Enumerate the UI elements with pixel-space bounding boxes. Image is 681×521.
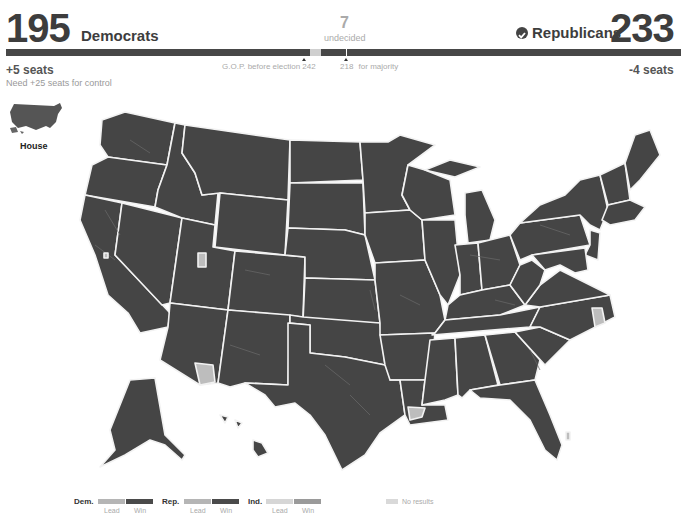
rep-segment: [321, 49, 681, 56]
legend-dem-label: Dem.: [74, 497, 94, 506]
state-north-dakota[interactable]: [290, 140, 363, 183]
legend-ind-lead-swatch: [266, 499, 293, 504]
state-florida[interactable]: [470, 380, 562, 460]
winner-check-icon: [516, 27, 528, 39]
legend-rep-lead-swatch: [184, 499, 211, 504]
state-iowa[interactable]: [365, 210, 425, 263]
democrat-need-text: Need +25 seats for control: [6, 78, 112, 88]
undecided-segment: [310, 49, 321, 56]
gop-before-text: G.O.P. before election: [222, 62, 300, 71]
democrat-label: Democrats: [81, 27, 159, 44]
legend-dem-win-label: Win: [134, 507, 146, 514]
state-maine[interactable]: [625, 130, 660, 190]
legend-dem-lead-label: Lead: [104, 507, 120, 514]
legend-ind-label: Ind.: [248, 497, 262, 506]
dem-segment: [6, 49, 310, 56]
seat-bar: [6, 49, 681, 56]
state-new-mexico[interactable]: [218, 310, 290, 387]
majority-marker: [344, 58, 348, 61]
republican-seat-count: 233: [610, 8, 674, 48]
state-hawaii-islands[interactable]: [220, 415, 242, 428]
us-map-thumbnail-icon: [6, 100, 64, 138]
gop-before-label: G.O.P. before election 242: [222, 62, 316, 71]
republican-seat-change: -4 seats: [629, 63, 674, 77]
democrat-seat-count: 195: [6, 8, 70, 48]
legend: Dem. Lead Win Rep. Lead Win Ind. Lead Wi…: [74, 497, 474, 519]
state-arizona[interactable]: [160, 303, 228, 385]
no-results-california[interactable]: [104, 253, 108, 258]
gop-before-marker: [302, 58, 306, 61]
no-results-utah[interactable]: [198, 253, 206, 267]
state-hawaii[interactable]: [253, 440, 268, 457]
state-michigan[interactable]: [465, 190, 495, 243]
legend-rep-win-swatch: [212, 499, 239, 504]
legend-no-results-swatch: [386, 499, 398, 504]
us-house-map[interactable]: [70, 95, 670, 480]
majority-label: 218 for majority: [340, 62, 398, 71]
house-thumbnail-button[interactable]: House: [6, 100, 64, 152]
undecided-count: 7: [340, 14, 349, 32]
state-colorado[interactable]: [228, 251, 305, 317]
legend-dem-win-swatch: [126, 499, 153, 504]
majority-line: [346, 49, 347, 56]
house-label: House: [20, 141, 48, 151]
legend-rep-lead-label: Lead: [190, 507, 206, 514]
state-wyoming[interactable]: [215, 193, 288, 255]
legend-ind-win-swatch: [294, 499, 321, 504]
state-south-dakota[interactable]: [288, 183, 365, 235]
legend-ind-lead-label: Lead: [272, 507, 288, 514]
gop-before-value: 242: [302, 62, 315, 71]
legend-rep-win-label: Win: [220, 507, 232, 514]
majority-value: 218: [340, 62, 353, 71]
state-alaska[interactable]: [100, 378, 185, 467]
state-kansas[interactable]: [303, 278, 380, 323]
majority-text: for majority: [359, 62, 399, 71]
no-results-florida[interactable]: [566, 432, 570, 440]
legend-rep-label: Rep.: [162, 497, 179, 506]
republican-label: Republicans: [532, 24, 621, 41]
democrat-seat-change: +5 seats: [6, 63, 54, 77]
legend-ind-win-label: Win: [302, 507, 314, 514]
no-results-north-carolina[interactable]: [592, 308, 605, 327]
undecided-label: undecided: [324, 33, 366, 43]
legend-dem-lead-swatch: [98, 499, 125, 504]
legend-no-results-label: No results: [402, 498, 434, 505]
